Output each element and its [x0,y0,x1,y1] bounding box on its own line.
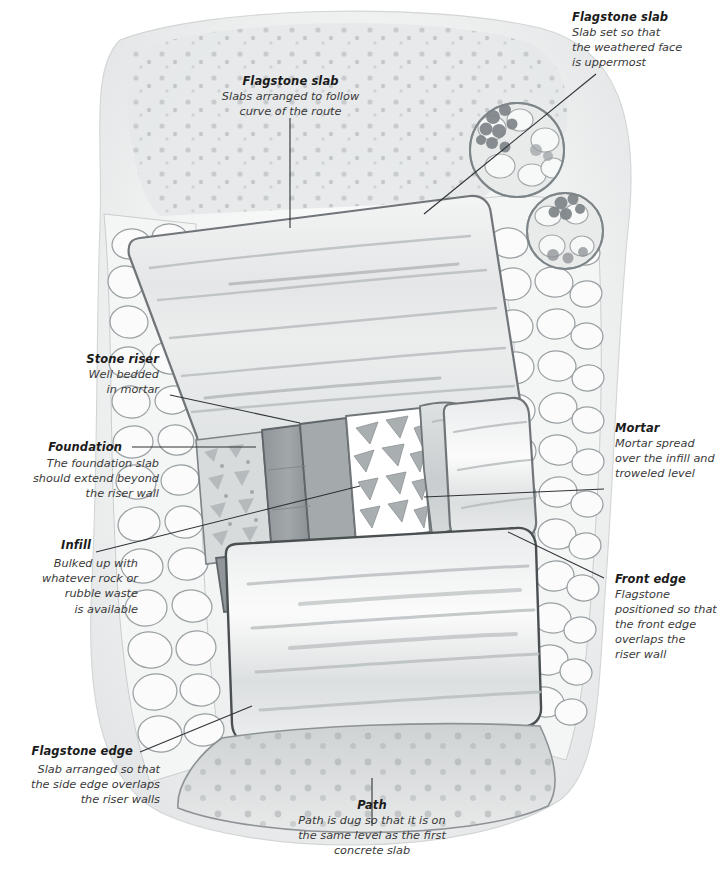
label-flagstone-slab-top: Flagstone slab Slabs arranged to follow … [188,74,393,119]
label-body-line: is available [0,602,138,617]
label-mortar: Mortar Mortar spread over the infill and… [615,421,711,481]
label-heading: Flagstone edge [0,744,133,759]
label-body-line: troweled level [615,466,711,481]
label-body-line: positioned so that [615,602,711,617]
label-flagstone-slab-right: Flagstone slab Slab set so that the weat… [572,10,712,70]
label-body-line: Mortar spread [615,436,711,451]
label-heading: Stone riser [0,352,159,367]
label-body-line: Slab arranged so that [0,762,160,777]
label-heading: Mortar [615,421,711,436]
planting-bed-upper [470,103,565,197]
label-heading: Front edge [615,572,711,587]
label-path: Path Path is dug so that it is on the sa… [272,798,472,858]
label-body-line: Slab set so that [572,25,712,40]
label-heading: Flagstone slab [572,10,712,25]
planting-bed-lower [527,193,603,269]
label-heading: Flagstone slab [188,74,393,89]
label-body-line: whatever rock or [0,571,138,586]
label-heading: Path [272,798,472,813]
rubble-infill [346,408,430,542]
flagstone-front-edge [444,398,536,544]
label-body-line: The foundation slab [0,456,159,471]
label-foundation-body: The foundation slab should extend beyond… [0,456,159,502]
label-body-line: the riser wall [0,486,159,501]
label-body-line: the front edge [615,617,711,632]
label-infill: Infill [0,538,91,553]
label-body-line: should extend beyond [0,471,159,486]
label-body-line: Slabs arranged to follow [188,89,393,104]
flagstone-slab-lower [226,528,541,742]
label-body-line: the same level as the first [272,828,472,843]
label-body-line: Well bedded [0,367,159,382]
label-stone-riser: Stone riser Well bedded in mortar [0,352,159,397]
label-body-line: Path is dug so that it is on [272,813,472,828]
label-foundation: Foundation [0,440,122,455]
label-flagstone-edge-body: Slab arranged so that the side edge over… [0,762,160,808]
label-body-line: the weathered face [572,40,712,55]
label-flagstone-edge: Flagstone edge [0,744,133,759]
label-body-line: Bulked up with [0,556,138,571]
label-heading: Infill [0,538,91,553]
label-heading: Foundation [0,440,122,455]
label-body-line: concrete slab [272,843,472,858]
label-body-line: the side edge overlaps [0,777,160,792]
label-infill-body: Bulked up with whatever rock or rubble w… [0,556,138,617]
label-body-line: is uppermost [572,55,712,70]
label-body-line: over the infill and [615,451,711,466]
label-body-line: curve of the route [188,104,393,119]
label-body-line: the riser walls [0,792,160,807]
label-body-line: in mortar [0,382,159,397]
label-body-line: overlaps the [615,632,711,647]
label-front-edge: Front edge Flagstone positioned so that … [615,572,711,663]
label-body-line: Flagstone [615,587,711,602]
label-body-line: rubble waste [0,586,138,601]
label-body-line: riser wall [615,647,711,662]
